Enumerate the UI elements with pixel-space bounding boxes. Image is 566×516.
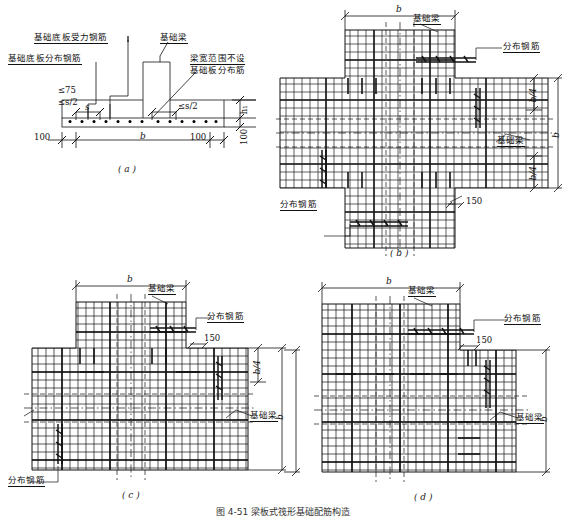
panel-d-letter: ( d ) [414, 492, 433, 502]
panel-b-dim-lap-150: 150 [466, 197, 482, 207]
panel-b-dist-rebar-left-label: 分布钢筋 [280, 200, 317, 211]
panel-a-dim-max75: ≤75 [58, 86, 76, 96]
panel-a-main-rebar-label: 基础底板受力钢筋 [34, 33, 108, 44]
panel-c-letter: ( c ) [122, 490, 140, 500]
panel-d-dim-lap-150: 150 [476, 336, 492, 346]
panel-d-slab-outline [322, 304, 516, 472]
panel-c-foundation-beam-top-label: 基础梁 [148, 284, 176, 295]
panel-c-dim-quarter: b/4 [252, 360, 262, 375]
panel-c-dim-height-b: b [275, 414, 285, 420]
panel-b-dim-quarter-bottom: b/4 [528, 166, 538, 181]
panel-a-note-line2: 基础板分布筋 [190, 66, 245, 76]
panel-a-foundation-beam-label: 基础梁 [160, 33, 188, 44]
panel-a-section: 基础底板受力钢筋 基础底板分布钢筋 基础梁 梁宽范围不设 基础板分布筋 ≤75 … [0, 0, 290, 185]
panel-a-drawing [0, 0, 290, 185]
panel-a-dim-edge-left: 100 [34, 133, 50, 143]
panel-c-dim-width-b: b [127, 274, 133, 284]
panel-a-dim-spacing-s: s [85, 102, 90, 112]
panel-c-slab-outline [32, 302, 248, 470]
panel-a-note-line1: 梁宽范围不设 [190, 54, 245, 65]
panel-a-dim-max-s-half-right: ≤s/2 [178, 102, 198, 112]
panel-d-dim-right [516, 346, 550, 476]
panel-d-plan-corner: 基础梁 分布钢筋 基础梁 b b 150 ( d ) [290, 268, 566, 516]
panel-a-dim-h1: h₁ [240, 105, 250, 114]
panel-d-dim-height-b: b [539, 416, 549, 422]
panel-b-plan-cross: 基础梁 分布钢筋 分布钢筋 基础梁 b b b/4 b/4 150 ( b ) [290, 0, 566, 262]
panel-a-dim-thickness-100: 100 [240, 129, 250, 145]
panel-a-dist-rebar-label: 基础底板分布钢筋 [8, 54, 82, 65]
panel-a-letter: ( a ) [118, 164, 136, 174]
panel-c-dim-lap-150: 150 [204, 334, 220, 344]
panel-d-dist-rebar-top-label: 分布钢筋 [504, 314, 541, 325]
panel-a-dim-width-b: b [140, 131, 146, 141]
rebar-dots [69, 120, 218, 123]
figure-caption: 图 4-51 梁板式筏形基础配筋构造 [0, 505, 566, 516]
panel-b-dist-rebar-top-label: 分布钢筋 [503, 42, 540, 53]
panel-b-dim-width-b: b [396, 4, 402, 14]
panel-a-dim-edge-right: 100 [190, 133, 206, 143]
panel-b-drawing [290, 0, 566, 262]
panel-b-letter: ( b ) [390, 248, 409, 258]
panel-d-dim-width-b: b [386, 276, 392, 286]
panel-d-drawing [290, 268, 566, 516]
panel-c-dist-rebar-top-label: 分布钢筋 [207, 312, 244, 323]
panel-b-dim-quarter-top: b/4 [528, 88, 538, 103]
panel-b-foundation-beam-top-label: 基础梁 [413, 14, 441, 25]
panel-a-dim-max-s-half-left: ≤s/2 [58, 98, 78, 108]
panel-d-foundation-beam-top-label: 基础梁 [408, 286, 436, 297]
panel-c-plan-tee: 基础梁 分布钢筋 分布钢筋 基础梁 b b b/4 150 ( c ) [0, 268, 290, 516]
panel-c-dist-rebar-bottom-label: 分布钢筋 [8, 476, 45, 487]
panel-c-foundation-beam-right-label: 基础梁 [250, 411, 278, 422]
panel-b-foundation-beam-right-label: 基础梁 [497, 136, 525, 147]
panel-b-dim-height-b: b [551, 132, 561, 138]
